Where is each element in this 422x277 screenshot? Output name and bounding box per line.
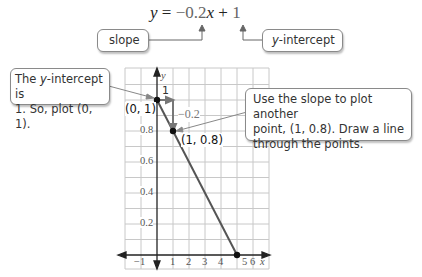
equation-intercept: 1 [232,3,241,22]
equation-slope: −0.2 [176,3,207,22]
x-axis-label: x [260,256,265,267]
y-tick: 0.2 [140,217,153,228]
y-intercept-callout-line2: 1. So, plot (0, 1). [15,102,109,132]
slope-callout: Use the slope to plot another point, (1,… [245,88,412,141]
equation-x: x [206,3,214,22]
y-intercept-label-italic: y [272,33,279,47]
y-axis-label: y [161,70,166,81]
slope-label: slope [109,33,140,47]
point-label-0-1: (0, 1) [125,102,156,116]
y-intercept-label-box: y-intercept [262,29,343,52]
y-tick: 0.6 [140,155,153,166]
slope-callout-line3: through the points. [253,137,411,152]
point-label-1-0.8: (1, 0.8) [181,133,223,147]
text-italic: y [40,72,47,86]
y-intercept-label: -intercept [279,33,335,47]
x-tick: 5 [242,256,247,267]
equation-plus: + [218,3,228,22]
y-tick: 0.8 [140,124,153,135]
x-tick: 1 [170,256,175,267]
x-tick: 3 [202,256,207,267]
y-intercept-callout-line1: The y-intercept is [15,72,109,102]
slope-arrows [157,97,176,131]
equation-equals: = [162,3,172,22]
slope-label-box: slope [97,29,149,52]
text: The [15,72,40,86]
slope-callout-line2: point, (1, 0.8). Draw a line [253,122,411,137]
y-tick: 0.4 [140,186,153,197]
x-tick: 4 [218,256,223,267]
equation-y: y [150,3,158,22]
equation-connectors [148,25,262,40]
y-intercept-callout: The y-intercept is 1. So, plot (0, 1). [10,68,110,105]
slope-callout-line1: Use the slope to plot another [253,92,411,122]
equation: y = −0.2x + 1 [150,3,241,23]
rise-label: −0.2 [178,107,200,122]
x-tick: −1 [134,256,145,267]
x-tick: 6 [250,256,255,267]
run-label: 1 [162,84,169,97]
x-tick: 2 [186,256,191,267]
